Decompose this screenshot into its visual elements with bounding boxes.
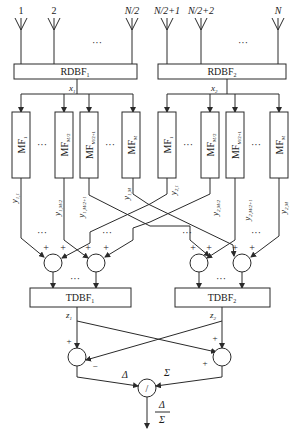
antenna-icon: 1 <box>15 5 27 64</box>
ellipsis: ··· <box>251 139 261 150</box>
svg-text:y1,M/2+1: y1,M/2+1 <box>76 196 88 219</box>
sigma-label: Σ <box>163 367 170 378</box>
svg-text:y2,M/2: y2,M/2 <box>210 200 222 217</box>
sum-node: + + <box>202 333 231 368</box>
mf-block: MF1 <box>158 112 176 178</box>
tdbf-1-block: TDBF1 <box>30 288 131 307</box>
ellipsis: ··· <box>251 227 261 238</box>
svg-text:z2: z2 <box>209 310 217 321</box>
x2-bus: x2 <box>167 79 279 112</box>
antenna-group-2: N/2+1 N/2+2 ··· N <box>153 5 284 64</box>
svg-text:−: − <box>92 361 97 371</box>
svg-text:+: + <box>66 336 71 346</box>
divide-icon: / <box>146 383 149 394</box>
ellipsis: ··· <box>238 37 248 48</box>
svg-text:RDBF2: RDBF2 <box>207 66 236 78</box>
svg-text:TDBF2: TDBF2 <box>208 292 237 304</box>
ellipsis: ··· <box>92 37 102 48</box>
ellipsis: ··· <box>183 139 193 150</box>
mf-block: MFM <box>122 112 140 178</box>
svg-text:+: + <box>202 358 207 368</box>
rdbf-1-block: RDBF1 <box>14 64 137 79</box>
svg-text:+: + <box>232 242 238 253</box>
ellipsis: ··· <box>102 227 112 238</box>
svg-text:+: + <box>212 333 217 343</box>
svg-text:RDBF1: RDBF1 <box>60 66 89 78</box>
svg-text:TDBF1: TDBF1 <box>66 292 95 304</box>
svg-text:+: + <box>190 242 196 253</box>
antenna-icon: 2 <box>48 5 60 64</box>
adder-circle: + + <box>43 242 66 272</box>
antenna-label: 2 <box>52 5 57 16</box>
svg-text:+: + <box>206 242 212 253</box>
svg-text:y2,M: y2,M <box>278 201 290 215</box>
mf-output-routing: y1,1 y1,M/2 y1,M/2+1 y1,M y2,1 y2,M/2 y2… <box>9 178 290 258</box>
mf-group-2: MF1 ··· MFM/2 MFM/2+1 ··· MFM <box>158 112 288 178</box>
svg-text:x2: x2 <box>210 83 218 94</box>
x1-bus: x1 <box>21 79 133 112</box>
mf-group-1: MF1 ··· MFM/2 MFM/2+1 ··· MFM <box>12 112 140 178</box>
monopulse-block-diagram: 1 2 ··· N/2 N/2+1 N/2+2 ··· N RDBF1 <box>0 0 297 435</box>
svg-text:y2,1: y2,1 <box>168 185 180 196</box>
mf-block: MFM/2 <box>201 112 219 178</box>
svg-text:+: + <box>85 242 91 253</box>
delta-label: Δ <box>121 369 128 380</box>
svg-text:z1: z1 <box>65 310 72 321</box>
antenna-icon: N/2+1 <box>153 5 180 64</box>
antenna-label: N/2 <box>124 5 139 16</box>
divider-node: / <box>138 379 156 397</box>
ellipsis: ··· <box>70 273 80 284</box>
svg-text:y1,M/2: y1,M/2 <box>52 200 64 217</box>
svg-text:y2,M/2+1: y2,M/2+1 <box>242 199 254 222</box>
rdbf-2-label: RDBF <box>207 66 234 77</box>
mf-block: MFM/2 <box>55 112 73 178</box>
rdbf-2-block: RDBF2 <box>158 64 286 79</box>
antenna-icon: N/2 <box>124 5 139 64</box>
svg-text:Σ: Σ <box>158 414 165 425</box>
svg-text:y1,1: y1,1 <box>9 193 21 204</box>
difference-node: + − <box>66 336 97 371</box>
ellipsis: ··· <box>37 139 47 150</box>
ellipsis: ··· <box>37 227 47 238</box>
adder-row: + + + + + + + + ··· ··· <box>43 242 255 288</box>
svg-text:+: + <box>249 242 255 253</box>
svg-text:+: + <box>60 242 66 253</box>
ellipsis: ··· <box>216 273 226 284</box>
svg-text:+: + <box>103 242 109 253</box>
antenna-label: N <box>274 5 283 16</box>
antenna-label: N/2+2 <box>187 5 214 16</box>
rdbf-1-label: RDBF <box>60 66 87 77</box>
svg-text:x1: x1 <box>68 83 76 94</box>
mf-block: MF1 <box>12 112 30 178</box>
antenna-icon: N <box>272 5 284 64</box>
antenna-icon: N/2+2 <box>187 5 214 64</box>
ellipsis: ··· <box>182 227 192 238</box>
antenna-group-1: 1 2 ··· N/2 <box>15 5 139 64</box>
mf-block: MFM/2+1 <box>80 112 98 178</box>
tdbf-2-label: TDBF <box>208 292 234 303</box>
mf-block: MFM <box>270 112 288 178</box>
svg-text:Δ: Δ <box>158 399 165 410</box>
antenna-label: 1 <box>19 5 24 16</box>
antenna-label: N/2+1 <box>153 5 180 16</box>
tdbf-1-label: TDBF <box>66 292 92 303</box>
svg-text:y1,M: y1,M <box>121 187 133 201</box>
svg-text:+: + <box>43 242 49 253</box>
combiner-network: z1 z2 + − + + Δ Σ / Δ Σ <box>65 307 231 428</box>
mf-block: MFM/2+1 <box>226 112 244 178</box>
tdbf-2-block: TDBF2 <box>175 288 270 307</box>
output-ratio: Δ Σ <box>155 399 170 425</box>
ellipsis: ··· <box>105 139 115 150</box>
